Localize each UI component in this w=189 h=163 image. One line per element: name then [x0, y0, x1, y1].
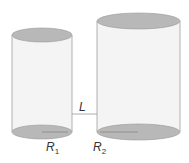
cylinders-diagram: L R1 R2 — [0, 0, 189, 163]
cylinder-1-top — [12, 28, 72, 42]
cylinder-1 — [12, 28, 72, 139]
cylinder-2 — [97, 13, 180, 140]
cylinder-2-top — [97, 13, 180, 29]
distance-label: L — [79, 100, 86, 114]
radius-2-label: R2 — [93, 140, 107, 156]
radius-1-label: R1 — [46, 140, 60, 156]
